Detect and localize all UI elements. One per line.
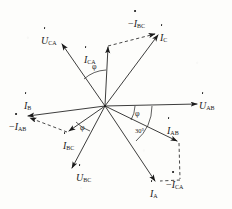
overdot-marker: [79, 164, 81, 166]
label-i-c: IC: [160, 28, 167, 44]
angle-label-phi-right: φ: [135, 109, 140, 118]
overdot-marker: [64, 132, 66, 134]
construction-neg-i-ab: [30, 118, 67, 132]
construction-neg-i-ca-drop: [179, 143, 180, 179]
label-neg-i-ab: −IAB: [9, 117, 26, 133]
vector-u-ab: [105, 104, 197, 106]
vector-i-ca: [105, 47, 108, 106]
angle-label-30: 30°: [135, 127, 144, 134]
label-u-ab: UAB: [199, 96, 215, 112]
overdot-marker: [151, 180, 153, 182]
overdot-marker: [134, 10, 136, 12]
phasor-vector-canvas: [0, 0, 232, 209]
label-u-ca: UCA: [41, 31, 57, 47]
label-u-bc: UBC: [76, 168, 91, 184]
phasor-diagram-figure: UCA ICA −IBC IC UAB IB −IAB IBC UBC IAB …: [0, 0, 232, 209]
angle-label-phi-left: φ: [80, 123, 85, 132]
overdot-marker: [202, 92, 204, 94]
vector-i-a: [105, 106, 155, 181]
label-neg-i-bc: −IBC: [128, 14, 145, 30]
vector-u-bc: [72, 106, 105, 168]
overdot-marker: [161, 24, 163, 26]
label-i-a: IA: [150, 184, 158, 200]
label-i-bc: IBC: [63, 136, 74, 152]
overdot-marker: [15, 113, 17, 115]
angle-label-phi-top: φ: [92, 62, 97, 71]
overdot-marker: [44, 27, 46, 29]
vector-i-c: [105, 35, 158, 106]
overdot-marker: [85, 46, 87, 48]
construction-neg-i-bc: [108, 34, 155, 46]
overdot-marker: [168, 117, 170, 119]
overdot-marker: [25, 92, 27, 94]
label-i-b: IB: [24, 96, 31, 112]
overdot-marker: [172, 171, 174, 173]
label-i-ab: IAB: [167, 121, 179, 137]
label-neg-i-ca: −ICA: [166, 175, 183, 191]
angle-arc-phi-top: [84, 70, 106, 79]
